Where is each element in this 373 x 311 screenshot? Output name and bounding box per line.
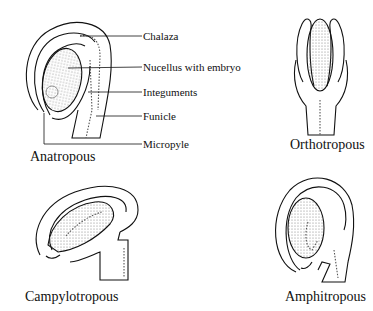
label-nucellus-with-embryo: Nucellus with embryo bbox=[143, 62, 241, 73]
label-integuments: Integuments bbox=[143, 87, 197, 98]
label-micropyle: Micropyle bbox=[143, 139, 189, 150]
anatropous-ovule bbox=[26, 23, 111, 138]
orthotropous-ovule bbox=[294, 19, 347, 135]
campylotropous-ovule bbox=[36, 186, 138, 280]
caption-campylotropous: Campylotropous bbox=[25, 290, 118, 304]
caption-orthotropous: Orthotropous bbox=[290, 138, 365, 152]
amphitropous-ovule bbox=[276, 178, 354, 282]
caption-amphitropous: Amphitropous bbox=[285, 290, 366, 304]
label-funicle: Funicle bbox=[143, 111, 176, 122]
caption-anatropous: Anatropous bbox=[30, 150, 95, 164]
label-chalaza: Chalaza bbox=[143, 31, 178, 42]
